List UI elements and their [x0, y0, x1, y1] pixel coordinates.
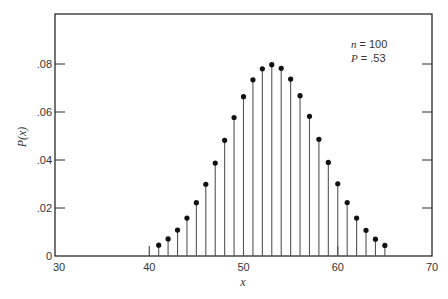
y-axis-title: P(x): [15, 127, 29, 149]
stem-marker: [166, 236, 171, 241]
x-tick-label: 60: [332, 261, 344, 273]
x-tick-label: 30: [53, 261, 65, 273]
stem-marker: [345, 200, 350, 205]
stem-marker: [288, 77, 293, 82]
legend-n-value: = 100: [360, 38, 388, 50]
stem-marker: [175, 227, 180, 232]
stem-marker: [184, 215, 189, 220]
stem-marker: [363, 228, 368, 233]
stem-marker: [335, 181, 340, 186]
stem-marker: [203, 182, 208, 187]
stem-marker: [213, 161, 218, 166]
x-tick-label: 50: [237, 261, 249, 273]
probability-stems: [156, 62, 387, 256]
y-tick-label: .06: [37, 106, 52, 118]
stem-marker: [307, 114, 312, 119]
stem-marker: [354, 215, 359, 220]
y-tick-label: .02: [37, 202, 52, 214]
x-axis-title: x: [239, 275, 246, 289]
stem-marker: [316, 137, 321, 142]
legend-p-symbol: P: [350, 52, 358, 64]
stem-marker: [260, 66, 265, 71]
legend-n: n= 100: [351, 38, 387, 50]
stem-marker: [241, 94, 246, 99]
x-tick-label: 70: [426, 261, 438, 273]
stem-marker: [326, 160, 331, 165]
y-tick-label: .04: [37, 154, 52, 166]
binomial-distribution-chart: 0.02.04.06.08 3040506070 P(x) x n= 100 P…: [0, 0, 448, 299]
x-tick-label: 40: [143, 261, 155, 273]
x-axis-ticks: 3040506070: [53, 246, 438, 273]
y-tick-label: 0: [46, 250, 52, 262]
stem-marker: [382, 243, 387, 248]
stem-marker: [279, 66, 284, 71]
legend-annotation: n= 100 P= .53: [350, 38, 387, 64]
stem-marker: [297, 93, 302, 98]
legend-n-symbol: n: [351, 38, 357, 50]
stem-marker: [194, 200, 199, 205]
stem-marker: [269, 62, 274, 67]
stem-marker: [156, 243, 161, 248]
legend-p: P= .53: [350, 52, 386, 64]
y-tick-label: .08: [37, 58, 52, 70]
legend-p-value: = .53: [361, 52, 386, 64]
stem-marker: [222, 138, 227, 143]
stem-marker: [250, 77, 255, 82]
stem-marker: [231, 115, 236, 120]
stem-marker: [373, 237, 378, 242]
